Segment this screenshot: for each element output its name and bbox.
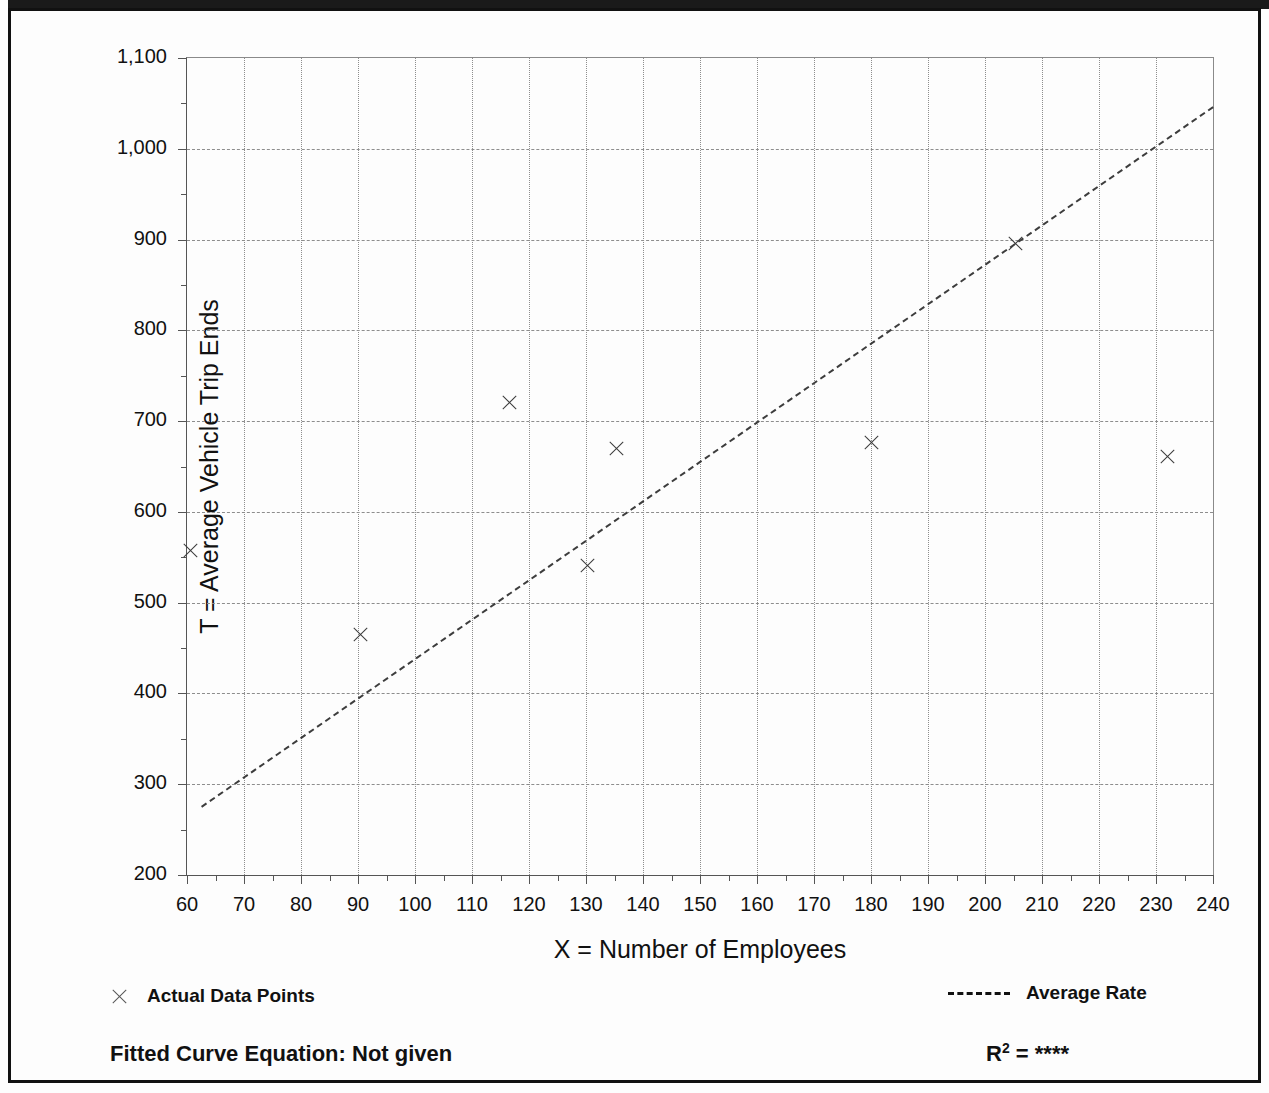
x-marker-icon bbox=[110, 987, 129, 1006]
x-axis-tick bbox=[586, 875, 587, 884]
y-axis-minor-tick bbox=[181, 194, 187, 195]
y-axis-minor-tick bbox=[181, 739, 187, 740]
y-axis-tick bbox=[178, 603, 187, 604]
legend-item-actual-data-points: Actual Data Points bbox=[110, 985, 315, 1007]
r-squared-symbol: R bbox=[986, 1041, 1002, 1066]
r-squared-value: R2 = **** bbox=[986, 1040, 1069, 1067]
legend-label-average: Average Rate bbox=[1026, 982, 1147, 1004]
x-axis-tick bbox=[301, 875, 302, 884]
gridline-vertical bbox=[757, 58, 758, 875]
gridline-vertical bbox=[985, 58, 986, 875]
x-axis-minor-tick bbox=[1185, 875, 1186, 881]
gridline-vertical bbox=[472, 58, 473, 875]
x-axis-minor-tick bbox=[729, 875, 730, 881]
y-axis-tick bbox=[178, 149, 187, 150]
y-axis-tick bbox=[178, 421, 187, 422]
data-point-marker bbox=[862, 432, 881, 451]
y-axis-tick bbox=[178, 784, 187, 785]
gridline-horizontal bbox=[187, 784, 1213, 785]
x-axis-tick bbox=[415, 875, 416, 884]
gridline-vertical bbox=[415, 58, 416, 875]
x-axis-tick bbox=[1213, 875, 1214, 884]
x-axis-tick bbox=[1042, 875, 1043, 884]
y-axis-tick bbox=[178, 693, 187, 694]
x-axis-minor-tick bbox=[444, 875, 445, 881]
y-axis-tick bbox=[178, 240, 187, 241]
y-axis-tick-label: 300 bbox=[82, 771, 167, 794]
y-axis-minor-tick bbox=[181, 376, 187, 377]
x-axis-tick-label: 130 bbox=[556, 893, 616, 916]
x-axis-tick-label: 220 bbox=[1069, 893, 1129, 916]
x-axis-minor-tick bbox=[501, 875, 502, 881]
gridline-horizontal bbox=[187, 512, 1213, 513]
x-axis-minor-tick bbox=[615, 875, 616, 881]
x-axis-tick bbox=[757, 875, 758, 884]
legend-item-average-rate: Average Rate bbox=[948, 982, 1147, 1004]
y-axis-title: T = Average Vehicle Trip Ends bbox=[195, 206, 224, 726]
x-axis-tick bbox=[244, 875, 245, 884]
x-axis-tick bbox=[358, 875, 359, 884]
y-axis-tick-label: 600 bbox=[82, 499, 167, 522]
x-axis-tick-label: 160 bbox=[727, 893, 787, 916]
gridline-vertical bbox=[700, 58, 701, 875]
x-axis-tick bbox=[871, 875, 872, 884]
x-axis-minor-tick bbox=[216, 875, 217, 881]
x-axis-minor-tick bbox=[1014, 875, 1015, 881]
y-axis-minor-tick bbox=[181, 285, 187, 286]
x-axis-tick bbox=[1099, 875, 1100, 884]
x-axis-minor-tick bbox=[900, 875, 901, 881]
gridline-horizontal bbox=[187, 693, 1213, 694]
gridline-vertical bbox=[928, 58, 929, 875]
gridline-vertical bbox=[643, 58, 644, 875]
x-axis-minor-tick bbox=[387, 875, 388, 881]
y-axis-tick-label: 1,100 bbox=[82, 45, 167, 68]
average-rate-trendline bbox=[201, 106, 1214, 808]
x-axis-minor-tick bbox=[558, 875, 559, 881]
y-axis-tick bbox=[178, 875, 187, 876]
y-axis-minor-tick bbox=[181, 648, 187, 649]
x-axis-tick-label: 180 bbox=[841, 893, 901, 916]
gridline-horizontal bbox=[187, 421, 1213, 422]
y-axis-tick bbox=[178, 330, 187, 331]
gridline-horizontal bbox=[187, 330, 1213, 331]
x-axis-tick bbox=[928, 875, 929, 884]
x-axis-tick-label: 150 bbox=[670, 893, 730, 916]
y-axis-tick-label: 200 bbox=[82, 862, 167, 885]
x-axis-minor-tick bbox=[786, 875, 787, 881]
data-point-marker bbox=[578, 555, 597, 574]
x-axis-tick bbox=[1156, 875, 1157, 884]
gridline-horizontal bbox=[187, 603, 1213, 604]
gridline-vertical bbox=[301, 58, 302, 875]
r-squared-exponent: 2 bbox=[1002, 1040, 1010, 1056]
plot-area: T = Average Vehicle Trip Ends 2003004005… bbox=[186, 57, 1214, 876]
chart-page: T = Average Vehicle Trip Ends 2003004005… bbox=[0, 0, 1269, 1093]
x-axis-tick bbox=[529, 875, 530, 884]
y-axis-minor-tick bbox=[181, 830, 187, 831]
gridline-horizontal bbox=[187, 240, 1213, 241]
gridline-vertical bbox=[1156, 58, 1157, 875]
data-point-marker bbox=[351, 624, 370, 643]
gridline-vertical bbox=[586, 58, 587, 875]
gridline-vertical bbox=[529, 58, 530, 875]
r-squared-stars: **** bbox=[1035, 1041, 1069, 1066]
legend-label-actual: Actual Data Points bbox=[147, 985, 315, 1007]
y-axis-tick-label: 400 bbox=[82, 680, 167, 703]
x-axis-tick bbox=[643, 875, 644, 884]
x-axis-tick-label: 200 bbox=[955, 893, 1015, 916]
x-axis-tick bbox=[472, 875, 473, 884]
x-axis-tick-label: 80 bbox=[271, 893, 331, 916]
data-point-marker bbox=[607, 439, 626, 458]
x-axis-minor-tick bbox=[1071, 875, 1072, 881]
x-axis-tick-label: 170 bbox=[784, 893, 844, 916]
x-axis-minor-tick bbox=[330, 875, 331, 881]
x-axis-tick-label: 90 bbox=[328, 893, 388, 916]
x-axis-tick-label: 110 bbox=[442, 893, 502, 916]
y-axis-tick-label: 800 bbox=[82, 317, 167, 340]
gridline-vertical bbox=[871, 58, 872, 875]
x-axis-tick-label: 140 bbox=[613, 893, 673, 916]
x-axis-tick-label: 100 bbox=[385, 893, 445, 916]
y-axis-tick-label: 700 bbox=[82, 408, 167, 431]
gridline-horizontal bbox=[187, 149, 1213, 150]
x-axis-tick-label: 230 bbox=[1126, 893, 1186, 916]
x-axis-tick bbox=[187, 875, 188, 884]
